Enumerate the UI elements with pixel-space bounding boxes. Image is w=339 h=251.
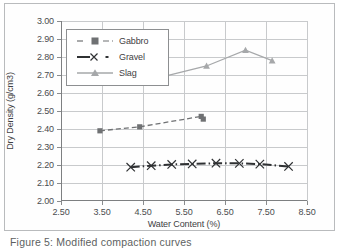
chart-canvas: Dry Density (g/cm3) Water Content (%) 2.…: [4, 3, 335, 231]
legend-item-gabbro: Gabbro: [67, 33, 168, 49]
x-tick-label: 4.50: [134, 207, 151, 217]
legend-label-gabbro: Gabbro: [119, 36, 148, 46]
x-tick-mark: [307, 201, 308, 205]
x-tick-label: 2.50: [52, 207, 69, 217]
x-axis-title: Water Content (%): [148, 219, 221, 229]
y-tick-label: 2.30: [37, 142, 54, 152]
y-tick-label: 2.70: [37, 70, 54, 80]
chart-legend: Gabbro Gravel: [66, 29, 169, 86]
y-tick-label: 2.00: [37, 196, 54, 206]
x-tick-mark: [225, 201, 226, 205]
legend-marker-slag: [76, 67, 114, 79]
y-tick-label: 2.20: [37, 160, 54, 170]
legend-marker-gabbro: [76, 35, 114, 47]
figure-caption: Figure 5: Modified compaction curves: [10, 236, 330, 251]
figure-container: Dry Density (g/cm3) Water Content (%) 2.…: [0, 0, 339, 251]
y-tick-label: 2.10: [37, 178, 54, 188]
x-tick-label: 6.50: [216, 207, 233, 217]
x-tick-label: 3.50: [93, 207, 110, 217]
y-tick-label: 2.90: [37, 34, 54, 44]
y-tick-label: 2.60: [37, 88, 54, 98]
x-tick-mark: [266, 201, 267, 205]
gridline-vertical: [307, 21, 308, 201]
legend-item-gravel: Gravel: [67, 49, 168, 65]
y-axis-title: Dry Density (g/cm3): [5, 72, 15, 150]
series-gabbro: [97, 114, 206, 134]
x-tick-label: 7.50: [257, 207, 274, 217]
legend-item-slag: Slag: [67, 65, 168, 81]
y-tick-label: 2.40: [37, 124, 54, 134]
legend-label-slag: Slag: [119, 68, 137, 78]
y-tick-label: 2.50: [37, 106, 54, 116]
x-tick-mark: [61, 201, 62, 205]
x-tick-mark: [143, 201, 144, 205]
x-tick-label: 8.50: [298, 207, 315, 217]
x-tick-mark: [102, 201, 103, 205]
legend-label-gravel: Gravel: [119, 52, 145, 62]
legend-marker-gravel: [76, 51, 114, 63]
series-gravel: [127, 159, 293, 171]
x-tick-mark: [184, 201, 185, 205]
x-tick-label: 5.50: [175, 207, 192, 217]
y-tick-label: 2.80: [37, 52, 54, 62]
y-tick-label: 3.00: [37, 16, 54, 26]
